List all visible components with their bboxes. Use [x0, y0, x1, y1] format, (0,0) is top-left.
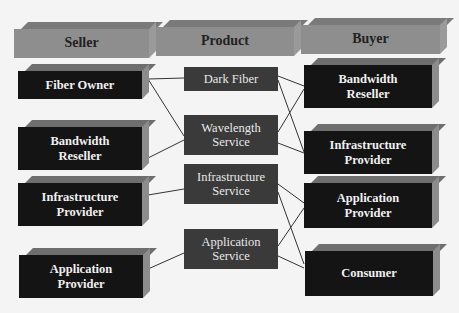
header-buyer: Buyer: [301, 18, 447, 54]
seller-label-line1: Bandwidth: [50, 134, 109, 148]
seller-label: Fiber Owner: [46, 78, 115, 92]
seller-application-provider: Application Provider: [19, 248, 150, 298]
seller-label-line1: Application: [50, 262, 113, 276]
buyer-label-line2: Reseller: [346, 87, 389, 101]
seller-label-line2: Provider: [58, 277, 105, 291]
market-diagram: Seller Product Buyer Fiber Owner Bandwid…: [0, 0, 459, 313]
buyer-infrastructure-provider: Infrastructure Provider: [304, 124, 439, 174]
header-buyer-label: Buyer: [352, 31, 389, 47]
buyer-label-line1: Application: [337, 191, 400, 205]
seller-label-line1: Infrastructure: [42, 190, 119, 204]
seller-fiber-owner: Fiber Owner: [18, 64, 149, 99]
seller-infrastructure-provider: Infrastructure Provider: [18, 176, 149, 226]
buyer-bandwidth-reseller: Bandwidth Reseller: [304, 58, 439, 108]
buyer-label-line2: Provider: [345, 153, 392, 167]
seller-label-line2: Reseller: [58, 149, 101, 163]
header-product: Product: [156, 20, 301, 56]
buyer-consumer: Consumer: [305, 244, 440, 296]
buyer-application-provider: Application Provider: [304, 176, 439, 228]
product-label-line1: Wavelength: [201, 121, 260, 135]
product-label-line1: Application: [201, 235, 260, 249]
header-seller-label: Seller: [64, 35, 98, 51]
product-label-line2: Service: [212, 135, 249, 149]
buyer-label-line1: Infrastructure: [330, 138, 407, 152]
header-product-label: Product: [201, 33, 249, 49]
product-label-line2: Service: [212, 184, 249, 198]
product-dark-fiber: Dark Fiber: [184, 67, 278, 91]
buyer-label: Consumer: [341, 266, 397, 280]
product-label: Dark Fiber: [204, 72, 259, 86]
seller-bandwidth-reseller: Bandwidth Reseller: [18, 120, 149, 170]
header-seller: Seller: [14, 22, 156, 58]
seller-label-line2: Provider: [57, 205, 104, 219]
product-application-service: Application Service: [184, 229, 278, 269]
product-wavelength-service: Wavelength Service: [184, 115, 278, 155]
buyer-label-line1: Bandwidth: [338, 72, 397, 86]
product-label-line1: Infrastructure: [197, 170, 265, 184]
product-infrastructure-service: Infrastructure Service: [184, 164, 278, 204]
product-label-line2: Service: [212, 249, 249, 263]
buyer-label-line2: Provider: [345, 206, 392, 220]
